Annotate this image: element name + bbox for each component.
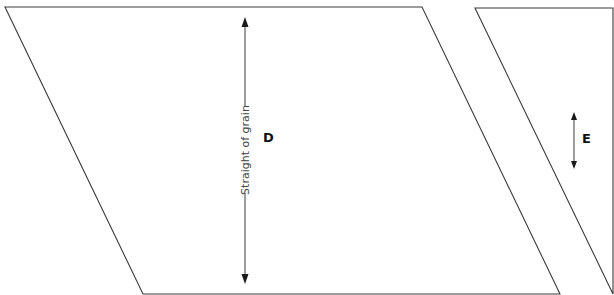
pattern-piece-d: Straight of grain D bbox=[5, 7, 560, 294]
piece-d-label: D bbox=[263, 130, 274, 145]
piece-d-outline bbox=[5, 7, 560, 294]
pattern-diagram: Straight of grain D E bbox=[0, 0, 614, 295]
piece-e-label: E bbox=[582, 131, 591, 146]
grainline-label: Straight of grain bbox=[239, 105, 252, 195]
